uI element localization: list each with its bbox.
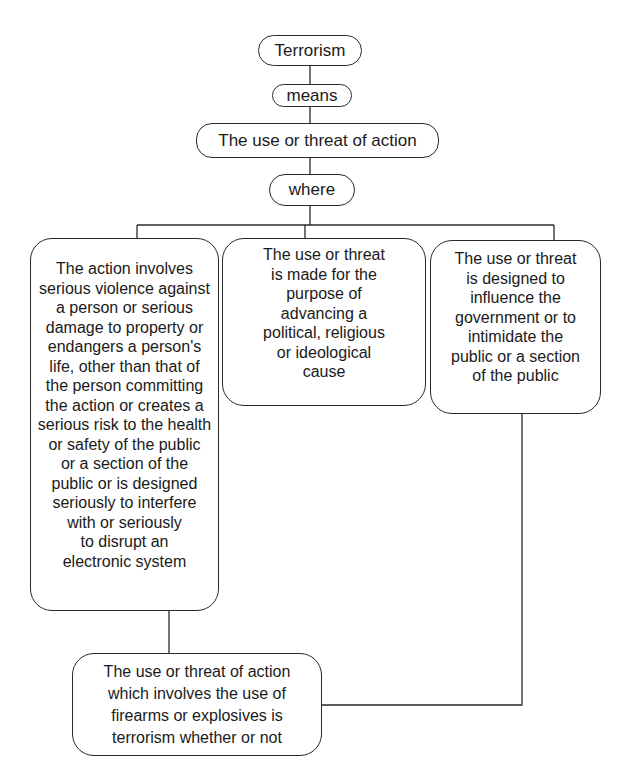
condition-influence-government-label: The use or threat is designed to influen…: [451, 249, 580, 386]
firearms-exception-label: The use or threat of action which involv…: [104, 661, 291, 749]
terrorism-node: Terrorism: [258, 35, 362, 66]
condition-serious-violence-label: The action involves serious violence aga…: [38, 259, 211, 571]
definition-label: The use or threat of action: [218, 131, 416, 151]
where-node: where: [269, 174, 355, 206]
condition-political-purpose-node: The use or threat is made for the purpos…: [222, 238, 426, 406]
definition-node: The use or threat of action: [196, 123, 439, 158]
condition-serious-violence-node: The action involves serious violence aga…: [30, 238, 219, 611]
means-node: means: [272, 84, 352, 107]
means-label: means: [286, 86, 337, 106]
condition-influence-government-node: The use or threat is designed to influen…: [430, 240, 601, 414]
terrorism-label: Terrorism: [275, 41, 346, 61]
condition-political-purpose-label: The use or threat is made for the purpos…: [263, 245, 385, 382]
where-label: where: [289, 180, 335, 200]
edge-condition-3-exception: [321, 413, 522, 705]
firearms-exception-node: The use or threat of action which involv…: [72, 653, 322, 756]
